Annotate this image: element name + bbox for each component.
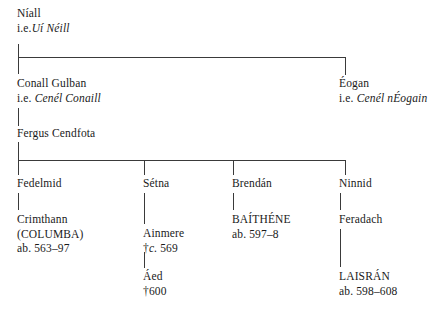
connector-eogan-down	[345, 57, 346, 75]
node-niall: Níall i.e.Uí Néill	[17, 6, 70, 35]
node-crimthann-alias: (COLUMBA)	[17, 227, 84, 242]
node-setna-name: Sétna	[143, 176, 169, 191]
node-crimthann-dates: ab. 563–97	[17, 241, 84, 256]
node-ainmere-name: Ainmere	[143, 226, 184, 241]
node-fedelmid: Fedelmid	[17, 176, 62, 191]
node-ainmere-year: 569	[157, 242, 178, 254]
node-baithene: BAÍTHÉNE ab. 597–8	[232, 212, 291, 241]
genealogy-chart: Níall i.e.Uí Néill Conall Gulban i.e. Ce…	[0, 0, 438, 312]
node-eogan: Éogan i.e. Cenél nÉogain	[339, 76, 427, 105]
node-ainmere-dates: †c. 569	[143, 241, 184, 256]
node-ninnid-name: Ninnid	[339, 176, 372, 191]
connector-brendan-to-baithene	[233, 193, 234, 210]
node-eogan-name: Éogan	[339, 76, 427, 91]
connector-setna-down	[144, 160, 145, 175]
node-laisran-name: LAISRÁN	[339, 269, 398, 284]
node-laisran-dates: ab. 598–608	[339, 284, 398, 299]
node-conall-gulban-gloss: i.e. Cenél Conaill	[17, 91, 101, 106]
connector-niall-bus	[18, 57, 346, 58]
node-aed: Áed †600	[143, 269, 167, 298]
node-aed-dates: †600	[143, 284, 167, 299]
connector-brendan-down	[233, 160, 234, 175]
node-conall-gulban-gloss-text: Cenél Conaill	[35, 92, 101, 104]
node-aed-name: Áed	[143, 269, 167, 284]
connector-fergus-down	[18, 142, 19, 161]
node-crimthann-columba: Crimthann (COLUMBA) ab. 563–97	[17, 212, 84, 256]
node-setna: Sétna	[143, 176, 169, 191]
connector-fedelmid-down	[18, 160, 19, 175]
node-fedelmid-name: Fedelmid	[17, 176, 62, 191]
node-conall-gulban-gloss-prefix: i.e.	[17, 92, 32, 104]
node-conall-gulban-name: Conall Gulban	[17, 76, 101, 91]
node-ainmere-circa: c.	[149, 242, 157, 254]
connector-fedelmid-to-crimthann	[18, 193, 19, 210]
node-fergus-cendfota: Fergus Cendfota	[17, 126, 95, 141]
node-conall-gulban: Conall Gulban i.e. Cenél Conaill	[17, 76, 101, 105]
node-feradach: Feradach	[339, 212, 382, 227]
node-ninnid: Ninnid	[339, 176, 372, 191]
node-brendan-name: Brendán	[232, 176, 272, 191]
node-brendan: Brendán	[232, 176, 272, 191]
node-fergus-cendfota-name: Fergus Cendfota	[17, 126, 95, 141]
connector-fergus-bus	[18, 160, 346, 161]
node-niall-gloss-prefix: i.e.	[17, 22, 32, 34]
node-laisran: LAISRÁN ab. 598–608	[339, 269, 398, 298]
node-eogan-gloss-text: Cenél nÉogain	[357, 92, 428, 104]
node-baithene-name: BAÍTHÉNE	[232, 212, 291, 227]
connector-ninnid-down	[345, 160, 346, 175]
node-niall-gloss: i.e.Uí Néill	[17, 21, 70, 36]
connector-ainmere-to-aed	[144, 252, 145, 268]
node-niall-name: Níall	[17, 6, 70, 21]
node-feradach-name: Feradach	[339, 212, 382, 227]
connector-feradach-to-laisran	[340, 229, 341, 267]
connector-setna-to-ainmere	[144, 193, 145, 224]
node-crimthann-name: Crimthann	[17, 212, 84, 227]
node-baithene-dates: ab. 597–8	[232, 227, 291, 242]
node-eogan-gloss-prefix: i.e.	[339, 92, 354, 104]
connector-conall-to-fergus	[18, 108, 19, 126]
node-eogan-gloss: i.e. Cenél nÉogain	[339, 91, 427, 106]
connector-niall-down	[18, 44, 19, 74]
node-niall-gloss-text: Uí Néill	[32, 22, 70, 34]
connector-ninnid-to-feradach	[340, 193, 341, 210]
node-ainmere: Ainmere †c. 569	[143, 226, 184, 255]
